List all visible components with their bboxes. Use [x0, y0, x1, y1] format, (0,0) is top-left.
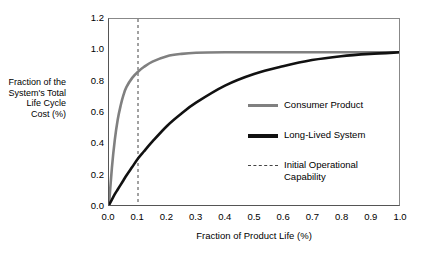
legend-line-black-icon: [248, 134, 278, 138]
y-axis-title-line-4: Cost (%): [2, 109, 66, 120]
y-axis-title-line-2: System's Total: [2, 88, 66, 99]
y-axis-title: Fraction of the System's Total Life Cycl…: [2, 77, 66, 119]
x-tick-label: 1.0: [383, 212, 417, 222]
legend-line-gray-icon: [248, 104, 278, 107]
legend-label-initial-operational-capability: Initial Operational Capability: [284, 159, 396, 182]
y-axis-title-line-3: Life Cycle: [2, 98, 66, 109]
legend-item-initial-operational-capability: Initial Operational Capability: [248, 160, 398, 171]
x-axis-title: Fraction of Product Life (%): [108, 230, 400, 241]
legend-label-consumer-product: Consumer Product: [284, 99, 363, 111]
legend-line-dashed-icon: [248, 165, 278, 166]
legend-label-long-lived-system: Long-Lived System: [284, 129, 365, 141]
y-axis-title-line-1: Fraction of the: [2, 77, 66, 88]
legend-item-long-lived-system: Long-Lived System: [248, 130, 398, 141]
chart-figure: 0.00.20.40.60.81.01.2 0.00.10.20.30.40.5…: [0, 0, 426, 256]
chart-legend: Consumer Product Long-Lived System Initi…: [248, 100, 398, 171]
legend-item-consumer-product: Consumer Product: [248, 100, 398, 111]
